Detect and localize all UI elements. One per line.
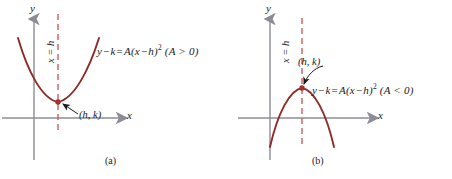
equation-lhs-k: k [111, 45, 116, 57]
vertex-point-dot [299, 85, 304, 90]
panel-b-downward-parabola: y x x = h (h, k) y−k=A(x−h)2(A < 0) (b) [226, 0, 452, 179]
equation-minus-1: − [317, 84, 325, 96]
x-axis-label: x [127, 110, 132, 121]
vertex-callout-arrow [63, 104, 78, 114]
axis-of-symmetry-label: x = h [281, 41, 292, 63]
y-axis-label: y [30, 3, 35, 14]
vertex-callout-arrow [304, 66, 323, 84]
panel-caption-a: (a) [105, 155, 116, 166]
vertex-coordinate-label: (h, k) [79, 110, 101, 121]
y-axis-label: y [266, 3, 271, 14]
panel-a-upward-parabola: y x x = h (h, k) y−k=A(x−h)2(A > 0) (a) [0, 0, 226, 179]
equation-label-a: y−k=A(x−h)2(A > 0) [97, 44, 199, 57]
panel-caption-b: (b) [312, 155, 324, 166]
equation-coefficient: A [124, 45, 131, 57]
equation-condition: (A < 0) [377, 84, 414, 96]
vertex-point-dot [55, 99, 60, 104]
vertex-coordinate-label: (h, k) [298, 57, 320, 68]
equation-coefficient: A [339, 84, 346, 96]
equation-condition: (A > 0) [162, 45, 199, 57]
equation-minus-1: − [102, 45, 110, 57]
parabola-vertex-form-figure: y x x = h (h, k) y−k=A(x−h)2(A > 0) (a) [0, 0, 452, 179]
axis-of-symmetry-label: x = h [46, 41, 57, 63]
equation-equals: = [116, 45, 124, 57]
x-axis-label: x [378, 110, 383, 121]
equation-label-b: y−k=A(x−h)2(A < 0) [312, 83, 414, 96]
panel-a-graph [0, 0, 226, 179]
equation-lhs-k: k [326, 84, 331, 96]
equation-equals: = [331, 84, 339, 96]
